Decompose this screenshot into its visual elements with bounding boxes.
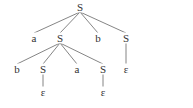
tree-node: S xyxy=(99,64,107,75)
tree-node: a xyxy=(31,33,38,44)
tree-node: ε xyxy=(100,87,107,98)
tree-edge xyxy=(60,43,77,64)
parse-tree: SaSbSbSaSεεε xyxy=(0,0,193,108)
tree-edge xyxy=(43,43,60,64)
tree-edge xyxy=(80,12,126,33)
tree-edge xyxy=(60,43,103,64)
tree-edges xyxy=(0,0,193,108)
tree-edge xyxy=(34,12,80,33)
tree-node: b xyxy=(13,64,21,75)
tree-edge xyxy=(80,12,98,33)
tree-node: a xyxy=(74,64,81,75)
tree-node: ε xyxy=(123,64,130,75)
tree-edge xyxy=(17,43,60,64)
tree-node: S xyxy=(76,2,84,13)
tree-node: S xyxy=(39,64,47,75)
tree-edge xyxy=(60,12,80,33)
tree-node: b xyxy=(94,33,102,44)
tree-node: S xyxy=(56,33,64,44)
tree-node: S xyxy=(122,33,130,44)
tree-node: ε xyxy=(40,87,47,98)
